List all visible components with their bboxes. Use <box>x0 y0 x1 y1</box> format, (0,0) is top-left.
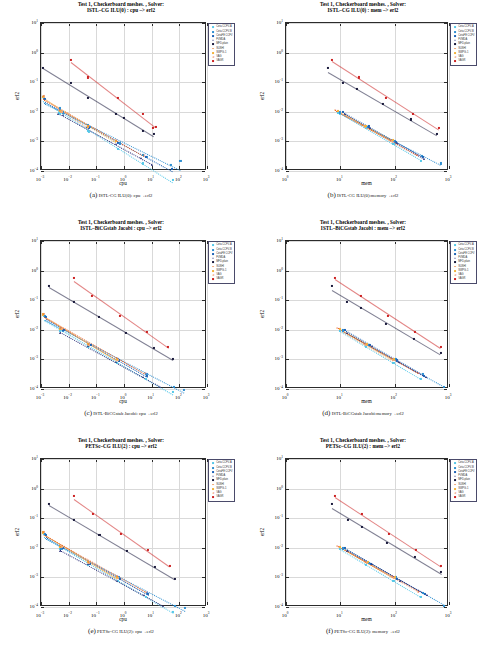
gridline-horizontal <box>41 271 205 272</box>
y-tick <box>286 548 289 549</box>
legend-item-label: VAGR <box>458 495 465 499</box>
data-point <box>385 97 387 99</box>
data-point <box>125 332 127 334</box>
plot-area-f: ∗∗∗∗ <box>285 458 448 606</box>
x-tick <box>340 384 341 387</box>
y-tick <box>41 241 44 242</box>
legend-c[interactable]: Ceta CCFV-ACeta CCFV-BCetaFE CCFVFVMDAMF… <box>208 241 235 284</box>
data-point: ∗ <box>363 343 366 345</box>
y-tick-right <box>202 271 205 272</box>
plot-panel-b: Test 1, Checkerboard meshes. , Solver:IS… <box>242 0 484 218</box>
legend-item-vagr[interactable]: VAGR <box>452 495 474 499</box>
y-tick-right <box>444 141 447 142</box>
data-point <box>59 550 61 552</box>
y-tick <box>286 489 289 490</box>
gridline-vertical <box>179 459 180 605</box>
y-tick <box>286 330 289 331</box>
data-point <box>440 346 442 348</box>
x-tick <box>340 166 341 169</box>
gridline-horizontal <box>41 459 205 460</box>
data-point <box>70 59 72 61</box>
x-tick <box>41 166 42 169</box>
legend-e[interactable]: Ceta CCFV-ACeta CCFV-BCetaFE CCFVFVMDAMF… <box>208 459 235 502</box>
y-tick <box>41 607 44 608</box>
legend-item-vagr[interactable]: VAGR <box>210 495 232 499</box>
plot-panel-c: Test 1, Checkerboard meshes. , Solver:IS… <box>0 218 242 436</box>
data-point <box>392 143 394 145</box>
y-tick-label: 10−4 <box>21 166 38 175</box>
data-point <box>331 503 333 505</box>
y-tick <box>41 82 44 83</box>
y-tick-right <box>202 489 205 490</box>
y-tick-right <box>202 112 205 113</box>
data-point <box>171 168 173 170</box>
gridline-vertical <box>152 459 153 605</box>
x-tick <box>124 384 125 387</box>
panel-title-line2: ISTL–BiCGstab Jacobi : mem –> erl2 <box>242 225 484 231</box>
gridline-horizontal <box>41 489 205 490</box>
gridline-vertical <box>69 241 70 387</box>
data-point <box>179 160 181 162</box>
y-tick-right <box>202 82 205 83</box>
data-point <box>126 550 128 552</box>
data-point <box>87 76 89 78</box>
legend-d[interactable]: Ceta CCFV-ACeta CCFV-BCetaFE CCFVFVMDAMF… <box>450 241 477 284</box>
data-point: ∗ <box>390 357 393 359</box>
y-tick-right <box>202 141 205 142</box>
x-tick <box>449 602 450 605</box>
data-point: ∗ <box>417 372 420 374</box>
panel-title-line2: ISTL–CG ILU(0) : mem –> erl2 <box>242 7 484 13</box>
y-tick <box>286 112 289 113</box>
gridline-vertical <box>179 241 180 387</box>
data-point <box>440 565 442 567</box>
legend-b[interactable]: Ceta CCFV-ACeta CCFV-BCetaFE CCFVFVMDAMF… <box>450 23 477 66</box>
x-tick <box>124 166 125 169</box>
data-point <box>414 331 416 333</box>
figure-page: Test 1, Checkerboard meshes. , Solver:IS… <box>0 0 484 655</box>
data-point <box>147 549 149 551</box>
data-point <box>339 546 341 548</box>
legend-item-label: VAGR <box>216 277 223 281</box>
data-point <box>45 316 47 318</box>
legend-item-vagr[interactable]: VAGR <box>210 59 232 63</box>
data-point <box>153 347 155 349</box>
x-tick <box>179 384 180 387</box>
data-point <box>396 142 398 144</box>
data-point <box>345 301 347 303</box>
data-point: ∗ <box>87 561 90 563</box>
data-point <box>72 277 74 279</box>
x-tick <box>207 602 208 605</box>
data-point <box>423 158 425 160</box>
data-point <box>151 164 153 166</box>
legend-f[interactable]: Ceta CCFV-ACeta CCFV-BCetaFE CCFVFVMDAMF… <box>450 459 477 502</box>
legend-marker-icon <box>452 59 458 63</box>
plot-panel-a: Test 1, Checkerboard meshes. , Solver:IS… <box>0 0 242 218</box>
y-tick <box>41 330 44 331</box>
x-tick <box>179 602 180 605</box>
panel-title-line2: ISTL–BiCGstab Jacobi : cpu –> erl2 <box>0 225 242 231</box>
y-tick-label: 10−4 <box>21 384 38 393</box>
legend-a[interactable]: Ceta CCFV-ACeta CCFV-BCetaFE CCFVFVMDAMF… <box>208 23 235 66</box>
data-point <box>70 82 72 84</box>
panel-title-d: Test 1, Checkerboard meshes. , Solver:IS… <box>242 219 484 232</box>
y-tick <box>286 359 289 360</box>
legend-marker-icon <box>210 59 216 63</box>
data-point <box>339 328 341 330</box>
y-tick-label: 101 <box>266 18 283 27</box>
y-tick-label: 100 <box>266 265 283 274</box>
y-tick-label: 10−2 <box>21 542 38 551</box>
y-tick-label: 10−3 <box>266 354 283 363</box>
legend-item-vagr[interactable]: VAGR <box>452 59 474 63</box>
data-point <box>183 389 185 391</box>
legend-item-vagr[interactable]: VAGR <box>452 277 474 281</box>
y-tick-label: 100 <box>21 483 38 492</box>
gridline-horizontal <box>286 548 447 549</box>
data-point <box>98 534 100 536</box>
y-tick-right <box>202 548 205 549</box>
legend-item-vagr[interactable]: VAGR <box>210 277 232 281</box>
data-point <box>392 580 394 582</box>
data-point <box>152 127 154 129</box>
y-tick <box>41 548 44 549</box>
y-tick-right <box>444 577 447 578</box>
data-point: ∗ <box>361 124 364 126</box>
